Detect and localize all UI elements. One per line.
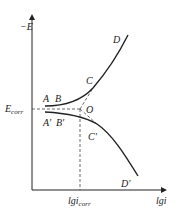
point-C-prime: C′ [88, 131, 98, 142]
point-B: B [55, 93, 61, 104]
polarization-diagram: −E lgi Ecorr lgicorr A B C D O A′ B′ C′ … [0, 0, 181, 213]
icorr-label: lgicorr [68, 195, 91, 208]
point-D: D [112, 34, 121, 45]
point-O: O [86, 104, 93, 115]
x-axis-label: lgi [156, 195, 167, 206]
point-D-prime: D′ [120, 178, 131, 189]
point-C: C [86, 75, 93, 86]
point-A: A [42, 93, 50, 104]
point-B-prime: B′ [56, 117, 65, 128]
point-A-prime: A′ [42, 117, 52, 128]
y-axis-label: −E [20, 21, 33, 32]
ecorr-label: Ecorr [4, 103, 23, 116]
